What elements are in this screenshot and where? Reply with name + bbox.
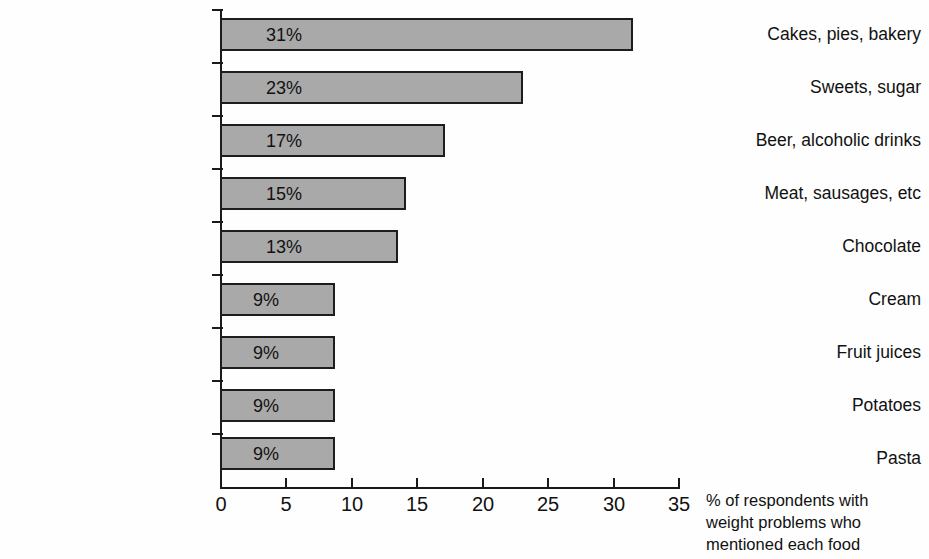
x-axis-tick xyxy=(285,478,287,489)
category-label: Beer, alcoholic drinks xyxy=(717,130,929,150)
x-axis-tick xyxy=(613,478,615,489)
bar-value-label: 9% xyxy=(253,444,279,464)
bar xyxy=(220,124,445,157)
x-axis-tick xyxy=(678,478,680,489)
y-axis-tick xyxy=(212,274,223,276)
category-label: Sweets, sugar xyxy=(717,77,929,97)
bar-value-label: 23% xyxy=(266,78,302,98)
annotation-line-1: % of respondents with xyxy=(706,489,926,511)
x-axis-tick-label: 0 xyxy=(198,492,244,516)
x-axis-tick-label: 5 xyxy=(263,492,309,516)
annotation-line-3: mentioned each food xyxy=(706,533,926,555)
bar xyxy=(220,177,406,210)
x-axis-tick xyxy=(416,478,418,489)
category-label: Fruit juices xyxy=(717,342,929,362)
category-label: Meat, sausages, etc xyxy=(717,183,929,203)
category-label: Cakes, pies, bakery xyxy=(717,24,929,44)
plot-area: Cakes, pies, bakery Sweets, sugar Beer, … xyxy=(0,0,929,559)
y-axis-tick xyxy=(212,380,223,382)
x-axis-line xyxy=(220,487,679,489)
bar-value-label: 9% xyxy=(253,290,279,310)
x-axis-tick xyxy=(482,478,484,489)
x-axis-tick-label: 25 xyxy=(525,492,571,516)
x-axis-tick-label: 10 xyxy=(329,492,375,516)
y-axis-tick xyxy=(212,327,223,329)
x-axis-tick-label: 15 xyxy=(394,492,440,516)
y-axis-tick xyxy=(212,62,223,64)
y-axis-tick xyxy=(212,115,223,117)
bar-value-label: 17% xyxy=(266,131,302,151)
bar-value-label: 13% xyxy=(266,237,302,257)
y-axis-tick xyxy=(212,168,223,170)
x-axis-tick-label: 35 xyxy=(656,492,702,516)
bar xyxy=(220,230,398,263)
bar-value-label: 9% xyxy=(253,396,279,416)
annotation-line-2: weight problems who xyxy=(706,511,926,533)
y-axis-tick xyxy=(212,433,223,435)
axis-annotation: % of respondents with weight problems wh… xyxy=(706,489,926,555)
y-axis-tick xyxy=(212,221,223,223)
bar-value-label: 15% xyxy=(266,184,302,204)
y-axis-tick xyxy=(212,9,223,11)
bar-value-label: 31% xyxy=(266,25,302,45)
bar-value-label: 9% xyxy=(253,343,279,363)
bar-chart: Cakes, pies, bakery Sweets, sugar Beer, … xyxy=(0,0,929,559)
x-axis-tick xyxy=(547,478,549,489)
x-axis-tick xyxy=(220,478,222,489)
category-label: Cream xyxy=(717,289,929,309)
x-axis-tick xyxy=(351,478,353,489)
x-axis-tick-label: 30 xyxy=(591,492,637,516)
x-axis-tick-label: 20 xyxy=(460,492,506,516)
category-label: Chocolate xyxy=(717,236,929,256)
category-label: Pasta xyxy=(717,448,929,468)
category-label: Potatoes xyxy=(717,395,929,415)
